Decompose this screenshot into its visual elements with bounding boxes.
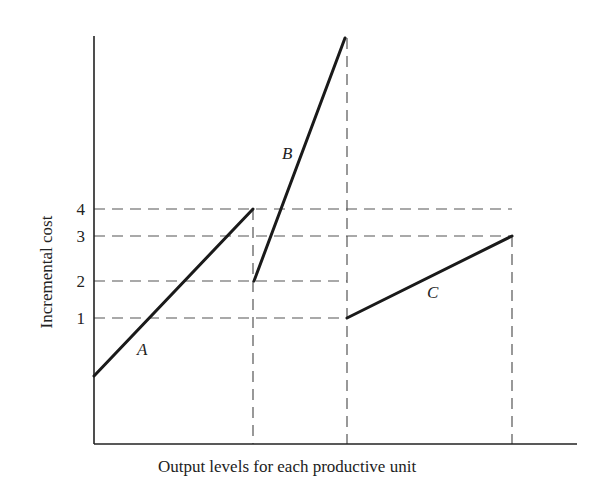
ytick-4: 4 — [77, 200, 86, 219]
series-a-line — [94, 209, 253, 376]
ytick-2: 2 — [77, 272, 86, 291]
series-c-line — [347, 236, 512, 318]
x-axis-title: Output levels for each productive unit — [158, 457, 417, 476]
ytick-1: 1 — [77, 309, 86, 328]
series-c-label: C — [427, 283, 439, 302]
reference-lines — [94, 38, 512, 444]
ytick-3: 3 — [77, 227, 86, 246]
y-axis-title: Incremental cost — [37, 215, 56, 328]
series-b-line — [254, 38, 345, 281]
series-a-label: A — [136, 340, 148, 359]
chart: A B C 4 3 2 1 Incremental cost Output le… — [0, 0, 605, 486]
series-b-label: B — [282, 144, 293, 163]
